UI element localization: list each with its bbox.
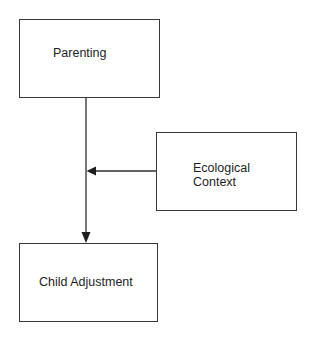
node-ecological-context: Ecological Context — [156, 132, 297, 211]
edge-parenting-to-child-adjustment — [82, 98, 91, 243]
arrowhead-down-icon — [82, 232, 91, 243]
diagram-canvas: Parenting Ecological Context Child Adjus… — [0, 0, 320, 345]
node-label-ecological-context: Ecological Context — [193, 161, 250, 189]
node-label-child-adjustment: Child Adjustment — [39, 275, 133, 289]
node-child-adjustment: Child Adjustment — [19, 243, 158, 322]
node-parenting: Parenting — [19, 19, 160, 98]
arrowhead-left-icon — [87, 167, 97, 176]
node-label-parenting: Parenting — [53, 46, 107, 60]
edge-ecological-context-moderation — [87, 167, 157, 176]
